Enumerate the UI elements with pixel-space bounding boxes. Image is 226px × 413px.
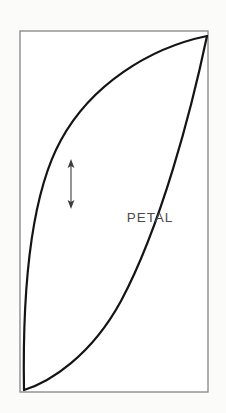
bounding-rectangle [20,31,208,392]
figure-canvas: PETAL [0,0,226,413]
petal-label: PETAL [127,210,173,225]
petal-pattern-diagram: PETAL [0,0,226,413]
